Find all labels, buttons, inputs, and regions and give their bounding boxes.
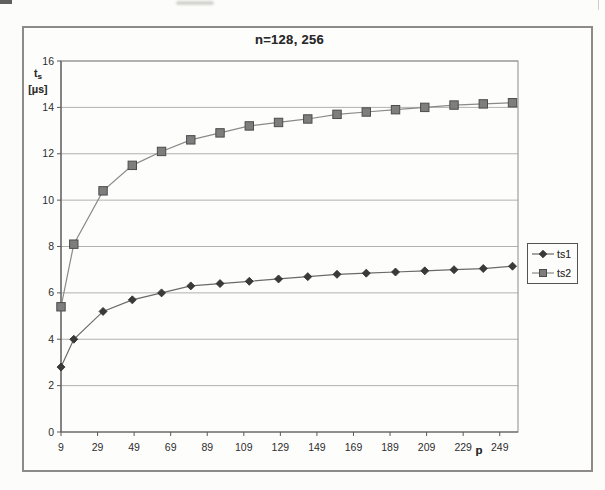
x-tick-label: 129 xyxy=(272,441,290,453)
x-axis-label: p xyxy=(470,444,488,456)
marker-ts2 xyxy=(128,161,136,169)
y-axis-unit: [μs] xyxy=(28,83,47,95)
x-tick-label: 49 xyxy=(128,441,140,453)
marker-ts2 xyxy=(99,187,107,195)
x-tick-label: 69 xyxy=(165,441,177,453)
x-tick-label: 9 xyxy=(58,441,64,453)
marker-ts2 xyxy=(57,303,65,311)
marker-ts1 xyxy=(275,275,283,283)
marker-ts2 xyxy=(274,118,282,126)
marker-ts1 xyxy=(245,277,253,285)
marker-ts1 xyxy=(216,280,224,288)
marker-ts1 xyxy=(362,269,370,277)
legend-label-ts1: ts1 xyxy=(557,248,571,260)
marker-ts2 xyxy=(157,147,165,155)
y-tick-label: 16 xyxy=(42,55,54,67)
marker-ts2 xyxy=(187,136,195,144)
y-tick-label: 2 xyxy=(48,379,54,391)
y-tick-label: 0 xyxy=(48,426,54,438)
y-tick-label: 10 xyxy=(42,194,54,206)
legend-label-ts2: ts2 xyxy=(557,267,571,279)
x-tick-label: 249 xyxy=(491,441,509,453)
chart-title: n=128, 256 xyxy=(61,32,518,47)
marker-ts2 xyxy=(362,108,370,116)
marker-ts2 xyxy=(70,240,78,248)
marker-ts2 xyxy=(421,103,429,111)
series-line-ts1 xyxy=(61,266,513,367)
marker-ts2 xyxy=(304,115,312,123)
scanned-page: { "chart": { "y_axis_label": { "t": "t",… xyxy=(0,0,605,490)
marker-ts2 xyxy=(450,101,458,109)
marker-ts2 xyxy=(216,129,224,137)
marker-ts1 xyxy=(392,268,400,276)
x-tick-label: 109 xyxy=(235,441,253,453)
y-tick-label: 6 xyxy=(48,286,54,298)
x-tick-label: 149 xyxy=(308,441,326,453)
x-tick-label: 209 xyxy=(418,441,436,453)
y-axis-label-subscript: s xyxy=(38,72,42,81)
legend: ts1 ts2 xyxy=(527,243,578,284)
marker-ts1 xyxy=(304,273,312,281)
marker-ts1 xyxy=(421,267,429,275)
x-tick-label: 89 xyxy=(201,441,213,453)
marker-ts1 xyxy=(450,266,458,274)
legend-item-ts2: ts2 xyxy=(528,264,577,283)
marker-ts2 xyxy=(479,100,487,108)
marker-ts1 xyxy=(187,282,195,290)
series-line-ts2 xyxy=(61,103,513,307)
x-tick-label: 29 xyxy=(92,441,104,453)
y-tick-label: 12 xyxy=(42,147,54,159)
ts2-marker-icon xyxy=(531,267,555,279)
y-tick-label: 14 xyxy=(42,101,54,113)
marker-ts1 xyxy=(158,289,166,297)
marker-ts2 xyxy=(508,99,516,107)
y-axis-label: ts [μs] xyxy=(25,67,51,96)
marker-ts1 xyxy=(333,270,341,278)
x-tick-label: 169 xyxy=(345,441,363,453)
marker-ts2 xyxy=(245,122,253,130)
marker-ts1 xyxy=(479,265,487,273)
y-tick-label: 4 xyxy=(48,333,54,345)
marker-ts1 xyxy=(509,262,517,270)
x-tick-label: 189 xyxy=(381,441,399,453)
marker-ts1 xyxy=(57,363,65,371)
ts1-marker-icon xyxy=(531,248,555,260)
legend-item-ts1: ts1 xyxy=(528,245,577,264)
marker-ts1 xyxy=(128,296,136,304)
y-tick-label: 8 xyxy=(48,240,54,252)
marker-ts2 xyxy=(391,105,399,113)
plot-area: 0246810121416929496989109129149169189209… xyxy=(0,0,605,490)
marker-ts2 xyxy=(333,110,341,118)
